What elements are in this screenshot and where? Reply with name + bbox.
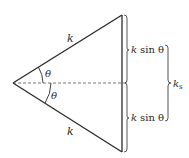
upper-segment-label: ksin θ (131, 44, 164, 55)
ks-brace (165, 45, 171, 121)
upper-angle-label: θ (45, 68, 51, 79)
top-side-line (13, 15, 122, 83)
lower-segment-sin: sin θ (140, 112, 164, 123)
lower-angle-label: θ (51, 90, 57, 101)
bottom-side-label: k (67, 125, 74, 138)
full-side-brace (124, 15, 129, 152)
ks-label: ks (173, 78, 183, 91)
upper-segment-k: k (131, 44, 137, 55)
bottom-side-line (13, 83, 122, 152)
triangle-diagram: k k θ θ ksin θ ksin θ ks (0, 0, 189, 158)
lower-segment-label: ksin θ (131, 112, 164, 123)
top-side-label: k (67, 32, 74, 45)
upper-segment-sin: sin θ (140, 44, 164, 55)
lower-segment-k: k (131, 112, 137, 123)
upper-angle-arc (39, 67, 44, 83)
ks-subscript: s (179, 83, 183, 91)
